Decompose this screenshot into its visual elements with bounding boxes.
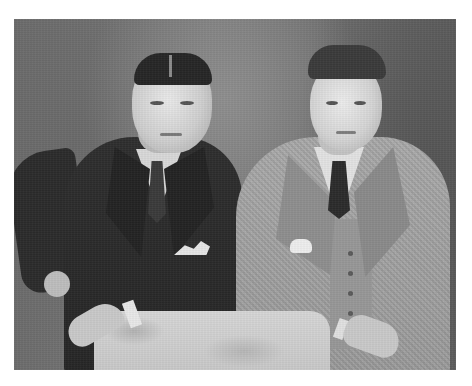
vest-button (348, 251, 353, 256)
vest-button (348, 271, 353, 276)
vest-button (348, 311, 353, 316)
right-man-hair (308, 45, 386, 79)
right-man-pocket-square (290, 239, 312, 253)
portrait-photo: Two men in suits posing beside a cloth-d… (14, 19, 456, 370)
vest-button (348, 291, 353, 296)
left-man-eye-right (180, 101, 194, 105)
left-man-eye-left (150, 101, 164, 105)
left-man-mouth (160, 133, 182, 136)
right-man-mouth (336, 131, 356, 134)
left-man-hip-hand (44, 271, 70, 297)
right-man-eye-right (354, 101, 366, 105)
right-man-eye-left (326, 101, 338, 105)
left-man-hair-part (169, 55, 172, 77)
left-man-hair (134, 53, 212, 85)
